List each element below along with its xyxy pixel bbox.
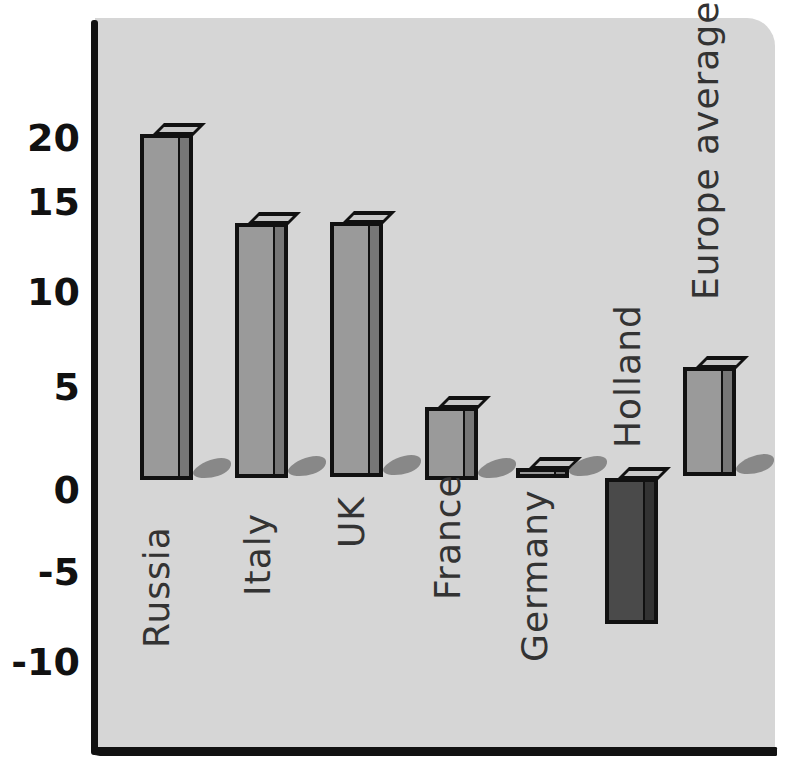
bar-side-face	[645, 478, 658, 624]
x-label-italy: Italy	[238, 513, 278, 596]
y-tick-15: 15	[0, 182, 80, 222]
x-label-uk: UK	[332, 496, 372, 548]
x-label-france: France	[428, 474, 468, 600]
bar-side-face	[370, 222, 383, 477]
x-label-europe-average: Europe average	[686, 1, 726, 300]
y-tick-0: 0	[0, 470, 80, 510]
x-label-germany: Germany	[515, 490, 555, 662]
bar-side-face	[275, 223, 288, 478]
bar-front-face	[425, 407, 467, 480]
y-tick-minus-10: -10	[0, 642, 80, 682]
bar-front-face	[516, 468, 558, 478]
y-tick-minus-5: -5	[0, 552, 80, 592]
x-axis-line	[91, 747, 777, 756]
y-tick-10: 10	[0, 272, 80, 312]
x-label-holland: Holland	[608, 304, 648, 448]
bar-front-face	[683, 367, 725, 476]
bar-side-face	[465, 407, 478, 480]
bar-side-face	[556, 468, 569, 478]
bar-side-face	[180, 134, 193, 480]
bar-front-face	[140, 134, 182, 480]
bar-side-face	[723, 367, 736, 476]
bar-front-face	[330, 222, 372, 477]
bar-front-face	[605, 478, 647, 624]
bar-front-face	[235, 223, 277, 478]
y-tick-5: 5	[0, 367, 80, 407]
y-axis-line	[91, 20, 98, 755]
y-tick-20: 20	[0, 118, 80, 158]
x-label-russia: Russia	[137, 526, 177, 648]
